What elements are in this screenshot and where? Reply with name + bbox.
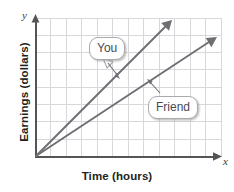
y-axis-title: Earnings (dollars) — [18, 17, 30, 167]
callout-label-you: You — [89, 37, 125, 60]
x-axis-title: Time (hours) — [0, 170, 234, 182]
callout-label-friend: Friend — [148, 96, 198, 119]
callout-you-pointer — [103, 58, 120, 79]
earnings-vs-time-chart: Time (hours) Earnings (dollars) y x You … — [0, 0, 234, 192]
y-axis-variable-label: y — [22, 9, 27, 21]
plot-area — [0, 0, 234, 192]
x-axis-variable-label: x — [223, 155, 228, 167]
callout-friend-pointer — [147, 79, 160, 93]
